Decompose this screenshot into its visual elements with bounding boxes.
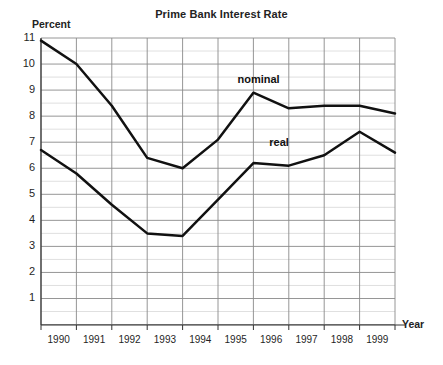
y-tick-label: 7 [9, 135, 35, 147]
prime-bank-interest-rate-chart: Prime Bank Interest Rate Percent Year 11… [0, 0, 443, 365]
y-tick-label: 6 [9, 161, 35, 173]
x-tick-label: 1999 [354, 334, 400, 345]
y-tick-label: 10 [9, 57, 35, 69]
axis-tick-marks [41, 325, 395, 330]
y-tick-label: 9 [9, 83, 35, 95]
series-annotation-nominal: nominal [237, 73, 279, 85]
series-annotation-real: real [269, 136, 289, 148]
y-tick-label: 5 [9, 187, 35, 199]
y-tick-label: 1 [9, 291, 35, 303]
y-axis-title: Percent [32, 18, 71, 30]
plot-area [0, 0, 443, 365]
y-tick-label: 8 [9, 109, 35, 121]
y-tick-label: 2 [9, 265, 35, 277]
x-axis-title: Year [402, 318, 424, 330]
y-tick-label: 4 [9, 213, 35, 225]
y-tick-label: 11 [9, 31, 35, 43]
y-tick-label: 3 [9, 239, 35, 251]
